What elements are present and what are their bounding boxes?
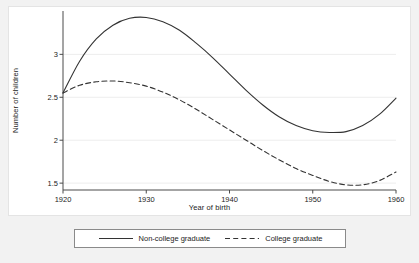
chart-figure: Number of children Year of birth 1920193…: [0, 0, 419, 263]
series-line-non-college-graduate: [63, 17, 396, 132]
x-tick-label: 1950: [304, 195, 321, 204]
series-line-college-graduate: [63, 81, 396, 185]
y-tick-label: 1.5: [33, 179, 58, 188]
y-tick-label: 3: [33, 50, 58, 59]
x-tick-label: 1930: [138, 195, 155, 204]
legend-label-college-graduate: College graduate: [265, 234, 322, 243]
legend-key-solid-line: [98, 235, 134, 242]
y-tick-label: 2.5: [33, 93, 58, 102]
legend-item-college-graduate: College graduate: [224, 234, 322, 243]
legend-key-dashed-line: [224, 235, 260, 242]
y-axis-label: Number of children: [11, 56, 20, 146]
legend-label-non-college-graduate: Non-college graduate: [139, 234, 211, 243]
y-tick-label: 2: [33, 136, 58, 145]
x-tick-label: 1920: [55, 195, 72, 204]
chart-legend: Non-college graduate College graduate: [74, 229, 346, 248]
x-tick-label: 1960: [388, 195, 405, 204]
x-axis-label: Year of birth: [0, 203, 419, 212]
x-tick-label: 1940: [221, 195, 238, 204]
line-chart-plot: [0, 0, 419, 263]
legend-item-non-college-graduate: Non-college graduate: [98, 234, 211, 243]
